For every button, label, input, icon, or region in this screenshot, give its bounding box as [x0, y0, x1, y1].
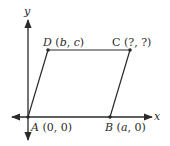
side-cb [110, 50, 130, 117]
coordinate-diagram: y x D (b, c) C (?, ?) A (0, 0) B (a, 0) [0, 0, 170, 146]
label-d: D (b, c) [42, 36, 84, 49]
label-c: C (?, ?) [112, 36, 151, 49]
point-a [26, 115, 30, 119]
label-b: B (a, 0) [104, 121, 146, 134]
point-b [108, 115, 112, 119]
x-axis-label: x [154, 110, 161, 123]
y-axis-label: y [23, 5, 31, 18]
diagram-svg: y x D (b, c) C (?, ?) A (0, 0) B (a, 0) [0, 0, 170, 146]
label-a: A (0, 0) [30, 121, 72, 134]
side-ad [28, 50, 48, 117]
